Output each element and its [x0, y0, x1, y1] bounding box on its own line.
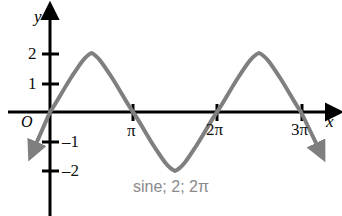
- x-axis-label: x: [326, 113, 334, 130]
- origin-label: O: [21, 114, 33, 130]
- sine-graph-figure: y x O 2 1 –1 –2 π 2π 3π sine; 2; 2π: [0, 0, 342, 216]
- y-tick-label-2: 2: [28, 45, 37, 62]
- x-tick-label-3pi: 3π: [291, 121, 308, 138]
- y-tick-label-minus-1: –1: [62, 133, 79, 150]
- y-tick-label-1: 1: [28, 75, 37, 92]
- x-tick-label-pi: π: [127, 122, 136, 139]
- y-tick-label-minus-2: –2: [62, 162, 79, 179]
- y-axis-label: y: [34, 8, 42, 25]
- figure-caption: sine; 2; 2π: [0, 178, 342, 196]
- x-tick-label-2pi: 2π: [206, 121, 223, 138]
- curve-left-continuation-arrow: [36, 112, 50, 144]
